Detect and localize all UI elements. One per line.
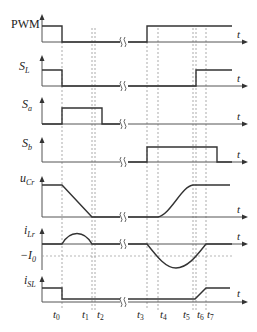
x-arrow-icon (242, 40, 248, 45)
t-axis-label: t (237, 203, 241, 215)
x-arrow-icon (242, 122, 248, 127)
y-arrow-icon (40, 137, 45, 143)
axis-break-icon (120, 297, 126, 307)
y-arrow-icon (40, 176, 45, 182)
trace-sb: Sb t (22, 136, 248, 167)
y-arrow-icon (40, 276, 45, 282)
trace-sa: Sa t (22, 97, 248, 129)
x-arrow-icon (242, 242, 248, 247)
t-axis-label: t (237, 148, 241, 160)
x-arrow-icon (242, 300, 248, 305)
x-arrow-icon (242, 84, 248, 89)
minus-i0-label: −I0 (20, 248, 36, 264)
sl-label: SL (19, 59, 30, 75)
t-axis-label: t (237, 28, 241, 40)
y-arrow-icon (40, 228, 45, 234)
t6-label: t6 (197, 308, 204, 322)
pwm-label: PWM (11, 17, 40, 31)
ilr-label: iLr (24, 223, 36, 239)
x-arrow-icon (242, 215, 248, 220)
time-marker-labels: t0 t1 t2 t3 t4 t5 t6 t7 (53, 308, 214, 322)
time-guides (62, 28, 206, 310)
t0-label: t0 (53, 308, 60, 322)
t-axis-label: t (237, 72, 241, 84)
t-axis-label: t (237, 110, 241, 122)
t-axis-label: t (237, 230, 241, 242)
axis-break-icon (120, 119, 126, 129)
sa-label: Sa (22, 97, 32, 113)
trace-ucr: uCr t (20, 171, 248, 222)
t7-label: t7 (207, 308, 214, 322)
axis-break-icon (120, 212, 126, 222)
t4-label: t4 (160, 308, 167, 322)
t3-label: t3 (137, 308, 144, 322)
trace-ilr: iLr −I0 t (20, 223, 248, 270)
trace-sl: SL t (19, 55, 248, 91)
t2-label: t2 (97, 308, 104, 322)
y-arrow-icon (40, 97, 45, 103)
t5-label: t5 (183, 308, 190, 322)
trace-pwm: PWM t (11, 14, 248, 47)
trace-isl: iSL t (24, 273, 248, 307)
axis-break-icon (120, 239, 126, 249)
t-axis-label: t (237, 287, 241, 299)
timing-diagram: PWM t SL t Sa t Sb t (0, 0, 257, 332)
y-arrow-icon (40, 55, 45, 61)
axis-break-icon (120, 81, 126, 91)
x-arrow-icon (242, 160, 248, 165)
ucr-label: uCr (20, 171, 35, 187)
t1-label: t1 (82, 308, 89, 322)
y-arrow-icon (40, 14, 45, 20)
isl-label: iSL (24, 273, 36, 289)
axis-break-icon (120, 37, 126, 47)
sb-label: Sb (22, 136, 32, 152)
axis-break-icon (120, 157, 126, 167)
